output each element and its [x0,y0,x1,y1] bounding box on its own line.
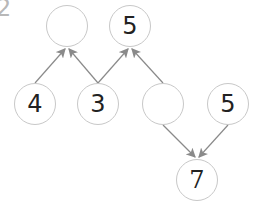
node-bottom-4: 5 [207,83,249,125]
node-value: 4 [27,90,42,118]
node-value: 7 [189,166,204,194]
number-tree-diagram: 2 5 4 3 5 7 [0,0,254,219]
node-top-left-blank[interactable] [46,5,88,47]
node-value: 5 [220,90,235,118]
arrow-blank-to-7 [163,125,195,157]
node-value: 5 [122,12,137,40]
arrow-5-to-7 [199,125,228,157]
arrow-4-to-top-left [35,49,65,83]
node-result: 7 [176,159,218,201]
node-bottom-3-blank[interactable] [142,83,184,125]
arrow-blank-to-top-right [132,49,163,83]
arrow-3-to-top-right [98,49,128,83]
node-bottom-1: 4 [14,83,56,125]
arrow-3-to-top-left [69,49,98,83]
node-top-right: 5 [109,5,151,47]
node-bottom-2: 3 [77,83,119,125]
node-value: 3 [90,90,105,118]
